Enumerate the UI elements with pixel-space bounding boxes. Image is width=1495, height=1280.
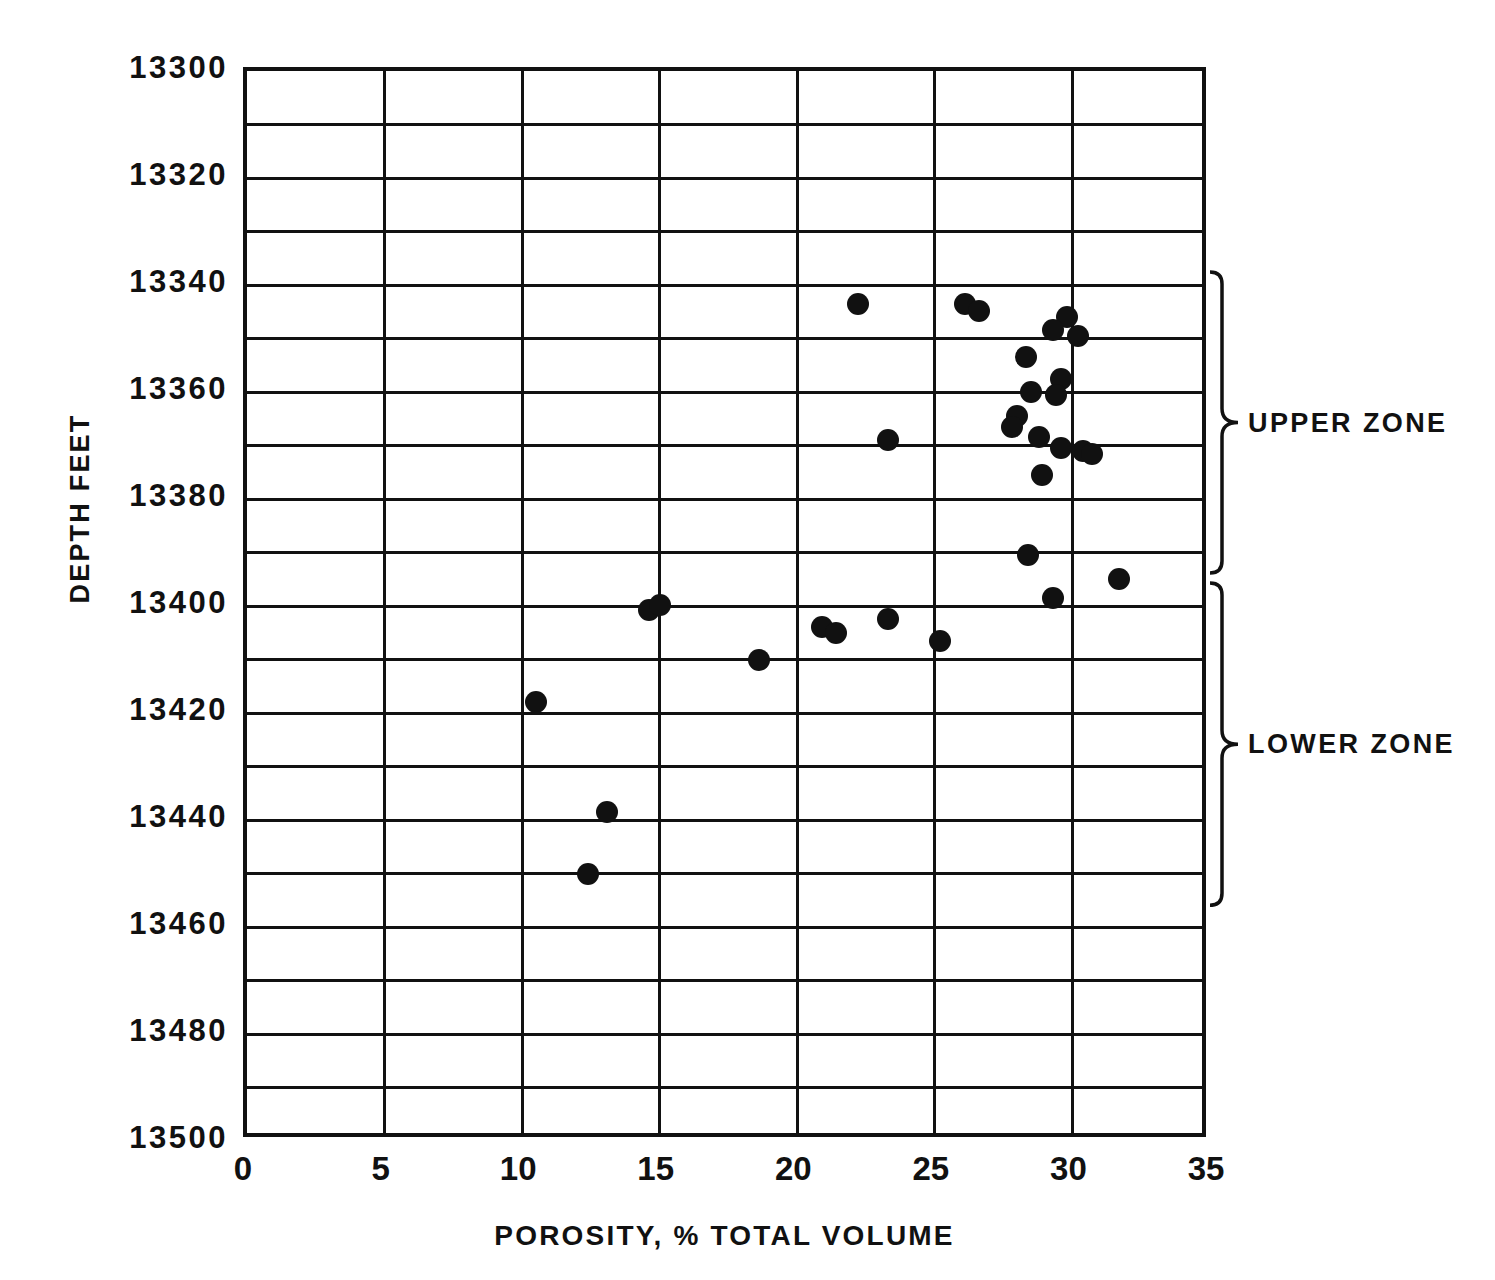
y-axis-tick-label: 13440: [18, 801, 228, 832]
y-axis-tick-label: 13380: [18, 480, 228, 511]
zone-brace-icon: [1208, 270, 1242, 575]
horizontal-gridline: [247, 872, 1202, 875]
x-axis-tick-label: 30: [1023, 1152, 1113, 1185]
vertical-gridline: [383, 71, 386, 1133]
data-point: [1031, 464, 1053, 486]
x-axis-tick-label: 25: [886, 1152, 976, 1185]
x-axis-title: POROSITY, % TOTAL VOLUME: [243, 1222, 1206, 1250]
data-point: [748, 649, 770, 671]
y-axis-tick-label: 13480: [18, 1015, 228, 1046]
data-point: [877, 429, 899, 451]
data-point: [968, 300, 990, 322]
horizontal-gridline: [247, 123, 1202, 126]
horizontal-gridline: [247, 979, 1202, 982]
data-point: [1017, 544, 1039, 566]
x-axis-tick-label: 35: [1161, 1152, 1251, 1185]
x-axis-tick-label: 0: [198, 1152, 288, 1185]
plot-area: [243, 67, 1206, 1137]
horizontal-gridline: [247, 1086, 1202, 1089]
vertical-gridline: [933, 71, 936, 1133]
horizontal-gridline: [247, 819, 1202, 822]
zone-label: UPPER ZONE: [1248, 409, 1448, 436]
vertical-gridline: [1071, 71, 1074, 1133]
data-point: [1001, 416, 1023, 438]
horizontal-gridline: [247, 284, 1202, 287]
horizontal-gridline: [247, 765, 1202, 768]
porosity-depth-scatter-figure: 1330013320133401336013380134001342013440…: [0, 0, 1495, 1280]
y-axis-tick-label: 13300: [18, 52, 228, 83]
horizontal-gridline: [247, 498, 1202, 501]
y-axis-tick-label: 13500: [18, 1122, 228, 1153]
zone-brace-icon: [1208, 581, 1242, 907]
horizontal-gridline: [247, 551, 1202, 554]
data-point: [1015, 346, 1037, 368]
y-axis-tick-label: 13340: [18, 266, 228, 297]
y-axis-tick-label: 13460: [18, 908, 228, 939]
data-point: [877, 608, 899, 630]
data-point: [1108, 568, 1130, 590]
data-point: [847, 293, 869, 315]
data-point: [929, 630, 951, 652]
data-point: [1050, 437, 1072, 459]
y-axis-tick-label: 13400: [18, 587, 228, 618]
vertical-gridline: [521, 71, 524, 1133]
x-axis-tick-label: 15: [611, 1152, 701, 1185]
horizontal-gridline: [247, 658, 1202, 661]
data-point: [649, 594, 671, 616]
data-point: [1081, 443, 1103, 465]
horizontal-gridline: [247, 926, 1202, 929]
data-point: [525, 691, 547, 713]
data-point: [1045, 384, 1067, 406]
data-point: [1020, 381, 1042, 403]
horizontal-gridline: [247, 712, 1202, 715]
x-axis-tick-label: 20: [748, 1152, 838, 1185]
data-point: [1067, 325, 1089, 347]
y-axis-tick-label: 13420: [18, 694, 228, 725]
horizontal-gridline: [247, 1033, 1202, 1036]
horizontal-gridline: [247, 230, 1202, 233]
y-axis-title: DEPTH FEET: [67, 369, 94, 649]
vertical-gridline: [796, 71, 799, 1133]
x-axis-tick-label: 10: [473, 1152, 563, 1185]
horizontal-gridline: [247, 177, 1202, 180]
y-axis-tick-labels: 1330013320133401336013380134001342013440…: [0, 0, 228, 1280]
y-axis-tick-label: 13320: [18, 159, 228, 190]
zone-label: LOWER ZONE: [1248, 730, 1455, 757]
y-axis-tick-label: 13360: [18, 373, 228, 404]
data-point: [1042, 587, 1064, 609]
data-point: [577, 863, 599, 885]
x-axis-tick-label: 5: [336, 1152, 426, 1185]
data-point: [825, 622, 847, 644]
